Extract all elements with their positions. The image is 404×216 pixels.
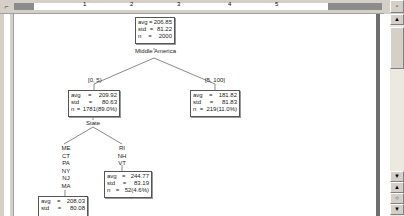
avg-label: avg — [71, 92, 81, 99]
state-item: ME — [60, 145, 72, 153]
avg-label: avg — [41, 198, 51, 205]
vertical-scrollbar[interactable]: ▲ ▼ ▲ ○ ▼ — [390, 14, 404, 216]
avg-value: 208.03 — [67, 198, 85, 205]
state-item: VT — [116, 160, 128, 168]
state-item: PA — [60, 160, 72, 168]
tree-node-right[interactable]: avg=181.82 std=81.83 n=219(11.0%) — [190, 90, 240, 117]
n-value: 219(11.0%) — [206, 106, 237, 113]
vertical-ruler[interactable] — [0, 14, 14, 216]
n-value: 2000 — [159, 33, 172, 40]
state-list-left: ME CT PA NY NJ MA — [60, 145, 72, 190]
arrow-up-icon: ▲ — [394, 16, 400, 22]
avg-label: avg — [193, 92, 203, 99]
double-arrow-up-icon: ▲ — [394, 184, 400, 190]
ruler-strip — [34, 3, 328, 10]
ruler-number: 2 — [130, 1, 133, 7]
state-item: NJ — [60, 175, 72, 183]
avg-value: 181.82 — [219, 92, 237, 99]
std-value: 80.08 — [70, 205, 85, 212]
state-item: RI — [116, 145, 128, 153]
double-arrow-down-icon: ▼ — [394, 206, 400, 212]
state-item: NY — [60, 168, 72, 176]
std-label: std — [193, 99, 201, 106]
horizontal-ruler[interactable]: ⌐ 1 2 3 4 5 — [0, 0, 384, 14]
n-value: 1781(89.0%) — [83, 106, 117, 113]
std-value: 81.83 — [222, 99, 237, 106]
avg-value: 209.92 — [99, 92, 117, 99]
std-value: 81.22 — [157, 26, 172, 33]
circle-icon: ○ — [395, 195, 399, 201]
avg-value: 206.85 — [154, 19, 172, 26]
ruler-strip — [4, 14, 10, 216]
n-label: n — [138, 33, 141, 40]
branch-label: [5, 100] — [205, 77, 225, 83]
state-list-right: RI NH VT — [116, 145, 128, 168]
state-item: MA — [60, 183, 72, 191]
next-page-button[interactable]: ▼ — [390, 204, 404, 215]
std-label: std — [41, 205, 49, 212]
tab-stop-icon[interactable]: ⌐ — [2, 2, 11, 11]
n-label: n — [107, 187, 110, 194]
split-label: State — [86, 120, 100, 126]
ruler-right-margin[interactable] — [328, 3, 382, 10]
state-item: CT — [60, 153, 72, 161]
ruler-number: 1 — [83, 1, 86, 7]
n-value: 52(4.6%) — [125, 187, 149, 194]
avg-label: avg — [107, 173, 117, 180]
view-ruler-button[interactable]: ▫ — [390, 0, 404, 13]
page-edge — [376, 14, 380, 216]
state-item: NH — [116, 153, 128, 161]
split-label: Middle America — [135, 48, 176, 54]
std-value: 80.63 — [102, 99, 117, 106]
n-label: n — [71, 106, 74, 113]
avg-value: 244.77 — [131, 173, 149, 180]
scroll-down-button[interactable]: ▼ — [390, 171, 404, 182]
arrow-down-icon: ▼ — [394, 173, 400, 179]
page-gap — [380, 14, 390, 216]
ruler-left-margin[interactable] — [14, 3, 34, 10]
branch-label: [0, 5) — [88, 77, 102, 83]
avg-label: avg — [138, 19, 148, 26]
tree-node-left-left[interactable]: avg=208.03 std=80.08 — [38, 196, 88, 216]
n-label: n — [193, 106, 196, 113]
std-value: 83.19 — [134, 180, 149, 187]
ruler-number: 3 — [177, 1, 180, 7]
ruler-number: 5 — [275, 1, 278, 7]
tree-node-left-right[interactable]: avg=244.77 std=83.19 n=52(4.6%) — [104, 171, 152, 198]
ruler-number: 4 — [228, 1, 231, 7]
tree-node-root[interactable]: avg=206.85 std=81.22 n=2000 — [135, 17, 175, 44]
scroll-up-button[interactable]: ▲ — [390, 14, 404, 25]
previous-page-button[interactable]: ▲ — [390, 182, 404, 193]
scroll-thumb[interactable] — [390, 27, 404, 69]
std-label: std — [138, 26, 146, 33]
std-label: std — [71, 99, 79, 106]
tree-node-left[interactable]: avg=209.92 std=80.63 n=1781(89.0%) — [68, 90, 120, 117]
std-label: std — [107, 180, 115, 187]
select-browse-object-button[interactable]: ○ — [390, 193, 404, 204]
